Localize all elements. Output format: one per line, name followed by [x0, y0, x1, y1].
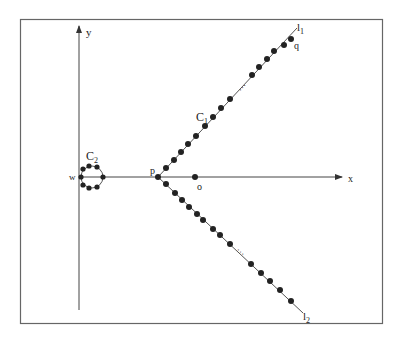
point-q-label: q: [294, 40, 299, 51]
ellipsis-upper: …: [234, 79, 247, 92]
ellipsis-lower: …: [236, 243, 249, 256]
line-l2-label: l2: [303, 310, 310, 325]
x-axis-label: x: [348, 173, 353, 184]
curve-c1-dots-upper: [155, 36, 294, 180]
point-o: [192, 174, 198, 180]
curve-c2-label: C2: [86, 149, 98, 165]
y-axis-label: y: [86, 26, 92, 38]
point-w-label: w: [69, 172, 76, 182]
curve-c1-label: C1: [196, 110, 208, 126]
diagram-canvas: y x l1 l2 …: [0, 0, 399, 343]
line-l1-label: l1: [297, 21, 304, 36]
point-p-label: p: [150, 165, 155, 176]
point-o-label: o: [197, 181, 202, 192]
